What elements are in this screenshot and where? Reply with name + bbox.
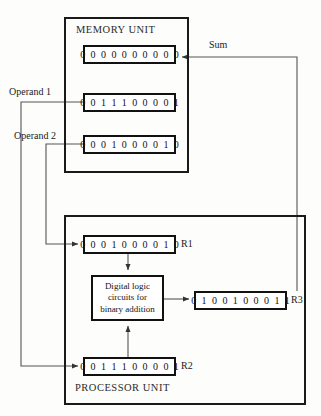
- processor-register-r2-label: R2: [181, 360, 193, 371]
- wire-label-sum: Sum: [209, 39, 227, 50]
- processor-register-r3: 0 1 0 0 1 0 0 0 1 1: [194, 291, 287, 310]
- processor-register-r2: 0 0 1 1 1 0 0 0 0 1: [83, 357, 176, 376]
- binary-addition-diagram: MEMORY UNIT 0 0 0 0 0 0 0 0 0 0 0 0 1 1 …: [0, 0, 321, 416]
- memory-unit-title: MEMORY UNIT: [76, 24, 156, 35]
- memory-register-sum-destination: 0 0 0 0 0 0 0 0 0 0: [83, 45, 176, 64]
- logic-block-line-1: Digital logic: [105, 281, 150, 293]
- logic-block-line-2: circuits for: [108, 292, 147, 304]
- logic-block-line-3: binary addition: [100, 304, 155, 316]
- processor-unit-title: PROCESSOR UNIT: [75, 382, 170, 393]
- memory-register-operand-2: 0 0 0 1 0 0 0 0 1 0: [83, 135, 176, 154]
- processor-register-r3-label: R3: [291, 294, 303, 305]
- memory-register-operand-1: 0 0 1 1 1 0 0 0 0 1: [83, 93, 176, 112]
- processor-register-r1-label: R1: [181, 238, 193, 249]
- wire-label-operand-1: Operand 1: [9, 86, 51, 97]
- digital-logic-block: Digital logic circuits for binary additi…: [91, 275, 164, 321]
- processor-register-r1: 0 0 0 1 0 0 0 0 1 0: [83, 235, 176, 254]
- wire-label-operand-2: Operand 2: [14, 130, 56, 141]
